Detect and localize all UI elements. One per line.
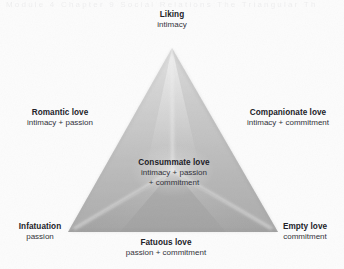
label-infatuation: Infatuation passion: [2, 222, 78, 242]
label-fatuous-love: Fatuous love passion + commitment: [104, 238, 228, 258]
label-consummate-love-title: Consummate love: [112, 158, 236, 168]
label-liking-title: Liking: [122, 10, 222, 20]
label-fatuous-love-sub: passion + commitment: [104, 248, 228, 258]
label-empty-love-title: Empty love: [268, 222, 342, 232]
label-empty-love-sub: commitment: [268, 232, 342, 242]
label-companionate-love-title: Companionate love: [232, 108, 344, 118]
label-infatuation-sub: passion: [2, 232, 78, 242]
label-liking-sub: intimacy: [122, 20, 222, 30]
diagram-page: Module 4 Chapter 9 Social Relations The …: [0, 0, 344, 269]
label-empty-love: Empty love commitment: [268, 222, 342, 242]
label-romantic-love: Romantic love intimacy + passion: [6, 108, 114, 128]
label-infatuation-title: Infatuation: [2, 222, 78, 232]
label-consummate-love: Consummate love intimacy + passion + com…: [112, 158, 236, 188]
label-companionate-love-sub: intimacy + commitment: [232, 118, 344, 128]
label-romantic-love-sub: intimacy + passion: [6, 118, 114, 128]
label-companionate-love: Companionate love intimacy + commitment: [232, 108, 344, 128]
label-consummate-love-sub-line2: + commitment: [112, 178, 236, 188]
label-fatuous-love-title: Fatuous love: [104, 238, 228, 248]
label-romantic-love-title: Romantic love: [6, 108, 114, 118]
label-consummate-love-sub-line1: intimacy + passion: [112, 168, 236, 178]
label-liking: Liking intimacy: [122, 10, 222, 30]
